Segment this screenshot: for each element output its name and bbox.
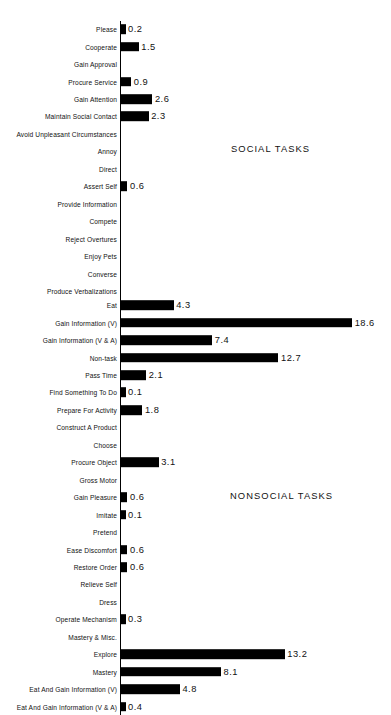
value-bar — [120, 353, 278, 363]
chart-row: Cooperate1.5 — [0, 38, 391, 55]
category-label: Procure Service — [68, 78, 117, 85]
value-bar — [120, 649, 285, 659]
category-label: Relieve Self — [80, 581, 117, 588]
chart-row: Ease Discomfort0.6 — [0, 541, 391, 558]
category-label: Imitate — [96, 511, 117, 518]
category-label: Choose — [94, 441, 117, 448]
chart-row: Construct A Product — [0, 419, 391, 436]
value-bar — [120, 42, 139, 52]
value-label: 4.8 — [182, 684, 196, 694]
category-label: Gross Motor — [79, 476, 117, 483]
chart-row: Pass Time2.1 — [0, 366, 391, 383]
value-label: 7.4 — [215, 335, 229, 345]
value-label: 3.1 — [161, 457, 175, 467]
category-label: Prepare For Activity — [57, 406, 117, 413]
value-bar — [120, 318, 352, 328]
value-label: 0.1 — [128, 510, 142, 520]
value-label: 4.3 — [176, 300, 190, 310]
category-label: Mastery & Misc. — [68, 633, 117, 640]
chart-row: Mastery8.1 — [0, 663, 391, 680]
chart-section-social: Please0.2Cooperate1.5Gain ApprovalProcur… — [0, 21, 391, 300]
category-label: Eat And Gain Information (V) — [29, 686, 117, 693]
value-label: 0.6 — [130, 181, 144, 191]
value-bar — [120, 562, 127, 572]
chart-row: Please0.2 — [0, 21, 391, 38]
value-bar — [120, 181, 127, 191]
category-label: Construct A Product — [56, 424, 117, 431]
category-label: Non-task — [90, 354, 117, 361]
chart-row: Avoid Unpleasant Circumstances — [0, 125, 391, 142]
value-bar — [120, 615, 126, 625]
category-label: Eat — [107, 302, 117, 309]
category-label: Restore Order — [74, 563, 117, 570]
chart-row: Reject Overtures — [0, 230, 391, 247]
value-bar — [120, 702, 126, 712]
value-bar — [120, 370, 146, 380]
category-label: Converse — [88, 270, 117, 277]
category-label: Eat And Gain Information (V & A) — [17, 703, 117, 710]
category-label: Direct — [99, 165, 117, 172]
chart-row: Relieve Self — [0, 576, 391, 593]
chart-row: Prepare For Activity1.8 — [0, 401, 391, 418]
chart-row: Procure Object3.1 — [0, 454, 391, 471]
category-label: Find Something To Do — [49, 389, 117, 396]
chart-row: Restore Order0.6 — [0, 558, 391, 575]
category-label: Produce Verbalizations — [47, 287, 117, 294]
category-label: Procure Object — [71, 459, 117, 466]
chart-row: Gain Information (V)18.6 — [0, 314, 391, 331]
category-label: Dress — [99, 598, 117, 605]
chart-row: Non-task12.7 — [0, 349, 391, 366]
category-label: Compete — [89, 218, 117, 225]
value-label: 0.6 — [130, 492, 144, 502]
value-bar — [120, 545, 127, 555]
chart-row: Direct — [0, 160, 391, 177]
value-bar — [120, 510, 126, 520]
chart-row: Find Something To Do0.1 — [0, 384, 391, 401]
category-label: Annoy — [98, 148, 117, 155]
chart-row: Enjoy Pets — [0, 247, 391, 264]
category-label: Provide Information — [58, 200, 117, 207]
chart-row: Choose — [0, 436, 391, 453]
value-bar — [120, 388, 126, 398]
chart-row: Pretend — [0, 523, 391, 540]
value-label: 0.2 — [128, 24, 142, 34]
value-bar — [120, 300, 174, 310]
value-bar — [120, 77, 131, 87]
chart-row: Gross Motor — [0, 471, 391, 488]
section-title: SOCIAL TASKS — [231, 143, 310, 154]
value-bar — [120, 492, 127, 502]
category-label: Gain Information (V) — [55, 319, 117, 326]
category-label: Gain Attention — [74, 96, 117, 103]
value-label: 18.6 — [355, 318, 375, 328]
category-label: Ease Discomfort — [67, 546, 117, 553]
value-label: 2.3 — [151, 111, 165, 121]
chart-row: Compete — [0, 212, 391, 229]
category-label: Operate Mechanism — [56, 616, 117, 623]
category-label: Gain Pleasure — [74, 494, 117, 501]
value-bar — [120, 405, 142, 415]
chart-row: Gain Attention2.6 — [0, 90, 391, 107]
chart-row: Dress — [0, 593, 391, 610]
value-bar — [120, 335, 212, 345]
category-label: Gain Information (V & A) — [43, 337, 117, 344]
category-label: Please — [96, 26, 117, 33]
category-label: Avoid Unpleasant Circumstances — [16, 130, 117, 137]
category-label: Cooperate — [85, 43, 117, 50]
chart-row: Gain Information (V & A)7.4 — [0, 331, 391, 348]
value-bar — [120, 112, 149, 122]
category-label: Assert Self — [84, 183, 117, 190]
chart-section-nonsocial: Eat4.3Gain Information (V)18.6Gain Infor… — [0, 297, 391, 715]
chart-row: Explore13.2 — [0, 646, 391, 663]
category-label: Pretend — [93, 529, 117, 536]
chart-row: Eat4.3 — [0, 297, 391, 314]
value-label: 0.6 — [130, 562, 144, 572]
value-label: 0.9 — [134, 77, 148, 87]
chart-row: Converse — [0, 265, 391, 282]
value-label: 0.3 — [128, 614, 142, 624]
chart-row: Assert Self0.6 — [0, 178, 391, 195]
chart-row: Operate Mechanism0.3 — [0, 611, 391, 628]
value-label: 8.1 — [224, 667, 238, 677]
chart-row: Annoy — [0, 143, 391, 160]
chart-row: Imitate0.1 — [0, 506, 391, 523]
